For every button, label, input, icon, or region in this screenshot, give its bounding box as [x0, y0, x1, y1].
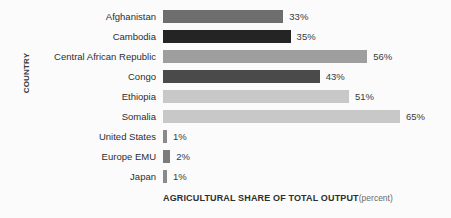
bar: [163, 130, 167, 143]
bar: [163, 10, 283, 23]
bar-row: Ethiopia51%: [0, 89, 451, 109]
bar-value-label: 65%: [406, 111, 425, 123]
x-axis-title-unit: (percent): [359, 193, 393, 203]
bar-value-label: 2%: [176, 151, 190, 163]
bar: [163, 170, 167, 183]
category-label: Cambodia: [0, 31, 156, 43]
category-label: Congo: [0, 71, 156, 83]
bar-row: Japan1%: [0, 169, 451, 189]
category-label: Central African Republic: [0, 51, 156, 63]
bar-value-label: 56%: [373, 51, 392, 63]
category-label: Somalia: [0, 111, 156, 123]
bar-row: Congo43%: [0, 69, 451, 89]
bar: [163, 110, 400, 123]
bar-value-label: 33%: [289, 11, 308, 23]
bar-row: Central African Republic56%: [0, 49, 451, 69]
bar-value-label: 51%: [355, 91, 374, 103]
bar-value-label: 35%: [297, 31, 316, 43]
x-axis-title-text: AGRICULTURAL SHARE OF TOTAL OUTPUT: [163, 193, 359, 203]
bar: [163, 150, 170, 163]
category-label: Japan: [0, 171, 156, 183]
bar-row: Somalia65%: [0, 109, 451, 129]
bar: [163, 50, 367, 63]
bar: [163, 30, 291, 43]
bar: [163, 90, 349, 103]
bar-value-label: 1%: [173, 131, 187, 143]
bar-row: United States1%: [0, 129, 451, 149]
category-label: United States: [0, 131, 156, 143]
bar-value-label: 43%: [326, 71, 345, 83]
x-axis-title: AGRICULTURAL SHARE OF TOTAL OUTPUT(perce…: [163, 193, 393, 203]
category-label: Ethiopia: [0, 91, 156, 103]
plot-area: Afghanistan33%Cambodia35%Central African…: [0, 9, 451, 189]
agricultural-share-bar-chart: COUNTRY Afghanistan33%Cambodia35%Central…: [0, 0, 451, 218]
bar-row: Cambodia35%: [0, 29, 451, 49]
bar-row: Europe EMU2%: [0, 149, 451, 169]
bar: [163, 70, 320, 83]
category-label: Afghanistan: [0, 11, 156, 23]
bar-row: Afghanistan33%: [0, 9, 451, 29]
category-label: Europe EMU: [0, 151, 156, 163]
bar-value-label: 1%: [173, 171, 187, 183]
